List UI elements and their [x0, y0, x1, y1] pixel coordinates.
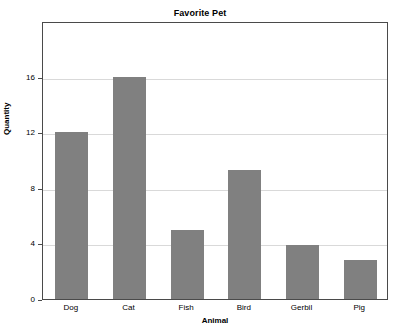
x-axis-tick-label: Pig	[330, 303, 388, 313]
y-axis-tick: 12	[0, 133, 42, 134]
chart-title: Favorite Pet	[0, 8, 400, 18]
y-axis-tick-label: 8	[31, 184, 35, 193]
y-axis-tick-label: 12	[26, 128, 35, 137]
y-axis-tick-label: 16	[26, 73, 35, 82]
y-axis-tick: 16	[0, 78, 42, 79]
y-axis-ticks: 0481216	[0, 22, 42, 300]
bar[interactable]	[344, 260, 377, 299]
x-axis-tick-label: Cat	[100, 303, 158, 313]
bar[interactable]	[286, 245, 319, 299]
y-axis-tick: 0	[0, 300, 42, 301]
bar-chart: Favorite Pet Quantity 0481216 DogCatFish…	[0, 0, 400, 330]
y-axis-tick-label: 4	[31, 239, 35, 248]
bars-group	[43, 23, 387, 299]
x-axis-tick-label: Bird	[215, 303, 273, 313]
x-axis-tick-labels: DogCatFishBirdGerbilPig	[42, 303, 388, 317]
bar[interactable]	[228, 170, 261, 299]
plot-area	[42, 22, 388, 300]
x-axis-tick-label: Dog	[42, 303, 100, 313]
tick-mark	[38, 300, 42, 301]
y-axis-tick: 8	[0, 189, 42, 190]
bar[interactable]	[171, 230, 204, 300]
x-axis-tick-label: Fish	[157, 303, 215, 313]
x-axis-title: Animal	[42, 316, 388, 325]
bar[interactable]	[55, 132, 88, 299]
y-axis-tick: 4	[0, 244, 42, 245]
x-axis-tick-label: Gerbil	[273, 303, 331, 313]
y-axis-tick-label: 0	[31, 295, 35, 304]
bar[interactable]	[113, 77, 146, 299]
